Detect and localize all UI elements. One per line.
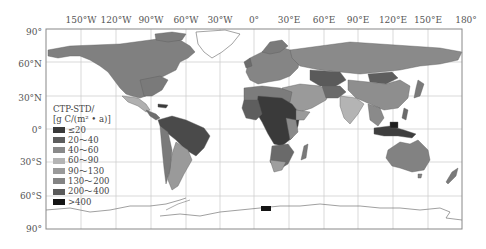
legend-label: ≤20 xyxy=(68,125,86,135)
mexico xyxy=(122,96,150,112)
usa-east xyxy=(140,76,168,96)
north-america xyxy=(48,38,195,98)
legend-label: 130～200 xyxy=(68,176,109,186)
legend-swatch xyxy=(53,189,65,195)
legend-item: 40～60 xyxy=(53,145,111,155)
legend-item: 90～130 xyxy=(53,166,111,176)
legend-item: 130～200 xyxy=(53,176,111,186)
legend-item: >400 xyxy=(53,197,111,207)
russia xyxy=(290,42,462,74)
legend-title-line2: [g C/(m² • a)] xyxy=(53,114,111,124)
horn-of-africa xyxy=(296,110,310,120)
japan xyxy=(414,80,424,98)
legend-swatch xyxy=(53,147,65,153)
legend-label: >400 xyxy=(68,197,91,207)
caribbean xyxy=(158,104,168,108)
tasmania xyxy=(418,174,422,178)
greenland xyxy=(196,30,240,58)
legend-label: 40～60 xyxy=(68,145,99,155)
arctic-archipelago xyxy=(155,32,186,42)
west-africa xyxy=(242,100,262,120)
legend-label: 20～40 xyxy=(68,135,99,145)
antarctica-high-value-patch xyxy=(261,206,271,211)
legend-swatch xyxy=(53,168,65,174)
madagascar xyxy=(301,144,308,160)
legend-swatch xyxy=(53,137,65,143)
legend: CTP-STD/ [g C/(m² • a)] ≤20 20～40 40～60 … xyxy=(53,104,111,207)
legend-swatch xyxy=(53,127,65,133)
legend-label: 200～400 xyxy=(68,186,109,196)
borneo xyxy=(390,122,398,128)
india xyxy=(340,96,364,124)
legend-title-line1: CTP-STD/ xyxy=(53,104,111,114)
legend-item: 200～400 xyxy=(53,186,111,196)
legend-item: 20～40 xyxy=(53,135,111,145)
central-america xyxy=(146,110,160,120)
legend-swatch xyxy=(53,199,65,205)
legend-label: 60～90 xyxy=(68,155,99,165)
new-zealand xyxy=(446,168,458,184)
legend-swatch xyxy=(53,158,65,164)
legend-item: 60～90 xyxy=(53,155,111,165)
legend-label: 90～130 xyxy=(68,166,104,176)
philippines xyxy=(402,108,408,120)
south-africa xyxy=(270,160,286,172)
legend-swatch xyxy=(53,178,65,184)
legend-item: ≤20 xyxy=(53,125,111,135)
kazakhstan xyxy=(310,70,346,86)
